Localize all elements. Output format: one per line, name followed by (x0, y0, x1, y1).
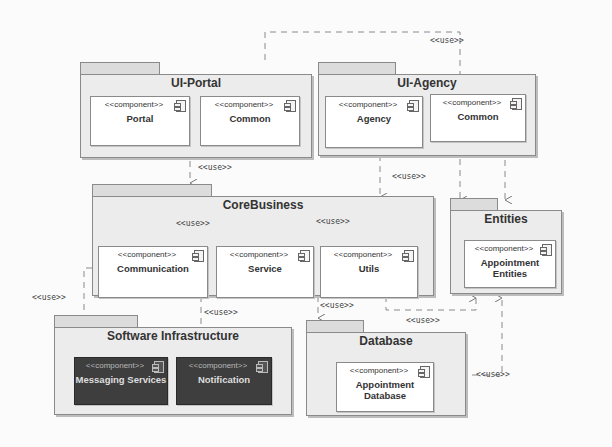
package-ui-agency[interactable]: UI-Agency <<component>> Agency <<compone… (318, 62, 536, 156)
use-label: <<use>> (406, 316, 440, 325)
component-common[interactable]: <<component>> Common (430, 94, 526, 142)
use-label: <<use>> (430, 36, 464, 45)
package-title: UI-Portal (80, 76, 312, 90)
component-icon (300, 250, 310, 262)
component-name: Appointment Database (337, 379, 433, 401)
component-name: Common (431, 111, 525, 122)
component-name: Messaging Services (75, 374, 167, 385)
use-label: <<use>> (320, 301, 354, 310)
component-name: Portal (91, 113, 189, 124)
component-communication[interactable]: <<component>> Communication (98, 246, 208, 298)
use-label: <<use>> (392, 172, 426, 181)
component-name: Common (201, 113, 299, 124)
component-messaging-services[interactable]: <<component>> Messaging Services (74, 357, 168, 405)
component-portal[interactable]: <<component>> Portal (90, 96, 190, 146)
component-service[interactable]: <<component>> Service (216, 246, 314, 298)
use-label: <<use>> (316, 217, 350, 226)
component-agency[interactable]: <<component>> Agency (325, 96, 423, 148)
component-name: Agency (326, 113, 422, 124)
package-title: UI-Agency (318, 76, 536, 90)
use-label: <<use>> (476, 370, 510, 379)
use-label: <<use>> (32, 293, 66, 302)
package-title: Software Infrastructure (54, 329, 292, 343)
component-icon (286, 100, 296, 112)
package-core-business[interactable]: CoreBusiness <<component>> Communication… (92, 184, 434, 296)
component-notification[interactable]: <<component>> Notification (176, 357, 272, 405)
package-ui-portal[interactable]: UI-Portal <<component>> Portal <<compone… (80, 62, 312, 158)
component-icon (404, 250, 414, 262)
component-icon (194, 250, 204, 262)
use-label: <<use>> (198, 163, 232, 172)
component-name: Appointment Entities (465, 257, 555, 279)
component-icon (409, 100, 419, 112)
component-appointment-database[interactable]: <<component>> Appointment Database (336, 362, 434, 412)
use-label: <<use>> (204, 308, 238, 317)
component-name: Communication (99, 263, 207, 274)
use-label: <<use>> (176, 219, 210, 228)
component-icon (420, 366, 430, 378)
component-icon (512, 98, 522, 110)
package-title: Database (306, 334, 466, 348)
component-appointment-entities[interactable]: <<component>> Appointment Entities (464, 240, 556, 288)
package-software-infrastructure[interactable]: Software Infrastructure <<component>> Me… (54, 315, 292, 415)
package-title: Entities (450, 212, 562, 226)
component-icon (258, 361, 268, 373)
component-common[interactable]: <<component>> Common (200, 96, 300, 146)
component-icon (176, 100, 186, 112)
component-name: Utils (321, 263, 417, 274)
component-name: Service (217, 263, 313, 274)
component-icon (154, 361, 164, 373)
component-utils[interactable]: <<component>> Utils (320, 246, 418, 298)
component-name: Notification (177, 374, 271, 385)
stereotype: <<component>> (99, 250, 207, 259)
package-entities[interactable]: Entities <<component>> Appointment Entit… (450, 198, 562, 294)
package-title: CoreBusiness (92, 198, 434, 212)
component-icon (542, 244, 552, 256)
package-database[interactable]: Database <<component>> Appointment Datab… (306, 320, 466, 416)
